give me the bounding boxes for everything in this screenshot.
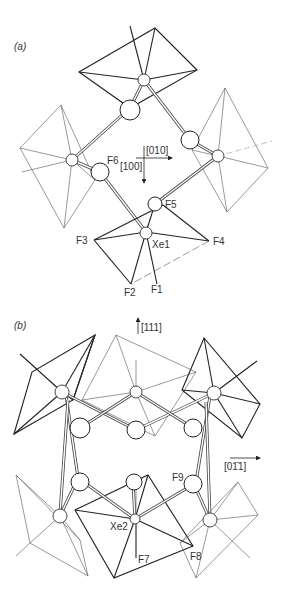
panel-b: (b) [111] [14,318,260,578]
label-F4: F4 [213,236,225,247]
f-atom-top [120,100,140,120]
xe-atom-b-lower-left [53,509,67,523]
label-F8: F8 [190,551,202,562]
label-F1: F1 [151,284,163,295]
xe-atom-b-middle [130,386,142,398]
f9-atom [184,475,202,493]
xe-atom-top [138,74,150,86]
label-F9: F9 [172,472,184,483]
f-atom-b-lower-left [71,473,89,491]
f-atom-b-left [70,418,90,438]
label-F2: F2 [124,287,136,298]
xe1-atom [140,227,152,239]
f-atom-b-lower-middle [126,474,142,490]
bridging-bonds-a [72,80,218,232]
xe-atom-b-lower-right [203,513,217,527]
crystal-structure-figure: (a) [0,0,281,595]
bridging-bonds-b-upper [60,392,214,518]
xe-atom-right [212,150,224,162]
label-F6: F6 [107,155,119,166]
axis-indicator-111: [111] [138,318,162,334]
axis-100-label: [100] [120,161,142,172]
f5-atom [148,197,162,211]
f-atom-b-right [184,419,202,437]
label-F3: F3 [76,235,88,246]
top-polyhedron [79,26,197,108]
panel-a: (a) [14,26,272,298]
f-atom-right [181,131,199,149]
axis-indicator-a: [010] [100] [120,145,172,183]
axis-010-label: [010] [146,145,168,156]
xe-atom-left [66,154,78,166]
xe2-atom [130,514,140,524]
label-F5: F5 [165,199,177,210]
xe-atom-b-right [207,386,221,400]
panel-a-label: (a) [14,41,26,52]
xe-atom-b-left [55,385,69,399]
axis-0-11-label: [01̄1] [224,461,246,472]
label-Xe1: Xe1 [152,239,170,250]
b-lower-right-polyhedron [180,482,258,578]
panel-b-label: (b) [14,320,26,331]
f-atom-b-middle [127,421,145,439]
right-polyhedron [192,88,272,212]
label-Xe2: Xe2 [110,521,128,532]
axis-111-label: [111] [141,322,162,333]
axis-indicator-011: [01̄1] [224,458,260,472]
label-F7: F7 [138,554,150,565]
